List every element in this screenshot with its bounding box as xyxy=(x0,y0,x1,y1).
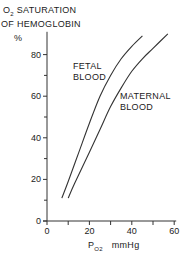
y-tick-label: 60 xyxy=(31,91,41,101)
maternal-blood-curve xyxy=(68,34,168,198)
x-tick-label: 40 xyxy=(127,226,137,236)
y-tick-label: 40 xyxy=(31,133,41,143)
chart-plot: 0204060800204060 xyxy=(0,0,185,257)
y-tick-label: 0 xyxy=(36,216,41,226)
y-tick-label: 80 xyxy=(31,50,41,60)
y-tick-label: 20 xyxy=(31,174,41,184)
x-tick-label: 60 xyxy=(169,226,179,236)
fetal-blood-curve xyxy=(62,36,143,198)
x-tick-label: 0 xyxy=(44,226,49,236)
x-tick-label: 20 xyxy=(84,226,94,236)
